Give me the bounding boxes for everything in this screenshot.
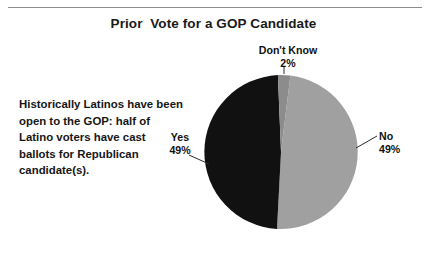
pie-label-no-text: No [379, 130, 393, 142]
pie-label-dont-know-text: Don't Know [259, 44, 317, 56]
pie-slice-yes [204, 75, 281, 229]
page-title: Prior Vote for a GOP Candidate [0, 16, 427, 31]
pie-slice-no [277, 76, 358, 229]
pie-slice-dont-know [278, 75, 291, 152]
pie-label-yes: Yes 49% [158, 131, 202, 157]
pie-label-yes-text: Yes [171, 131, 189, 143]
pie-label-dont-know: Don't Know 2% [236, 44, 340, 70]
pie-label-no-value: 49% [379, 143, 419, 156]
pie-label-yes-value: 49% [158, 144, 202, 157]
pie-label-dont-know-value: 2% [236, 57, 340, 70]
pie-label-no: No 49% [379, 130, 419, 156]
chart-canvas: Prior Vote for a GOP Candidate Historica… [0, 0, 427, 268]
header-divider [8, 7, 422, 8]
leader-line-no [356, 136, 377, 148]
